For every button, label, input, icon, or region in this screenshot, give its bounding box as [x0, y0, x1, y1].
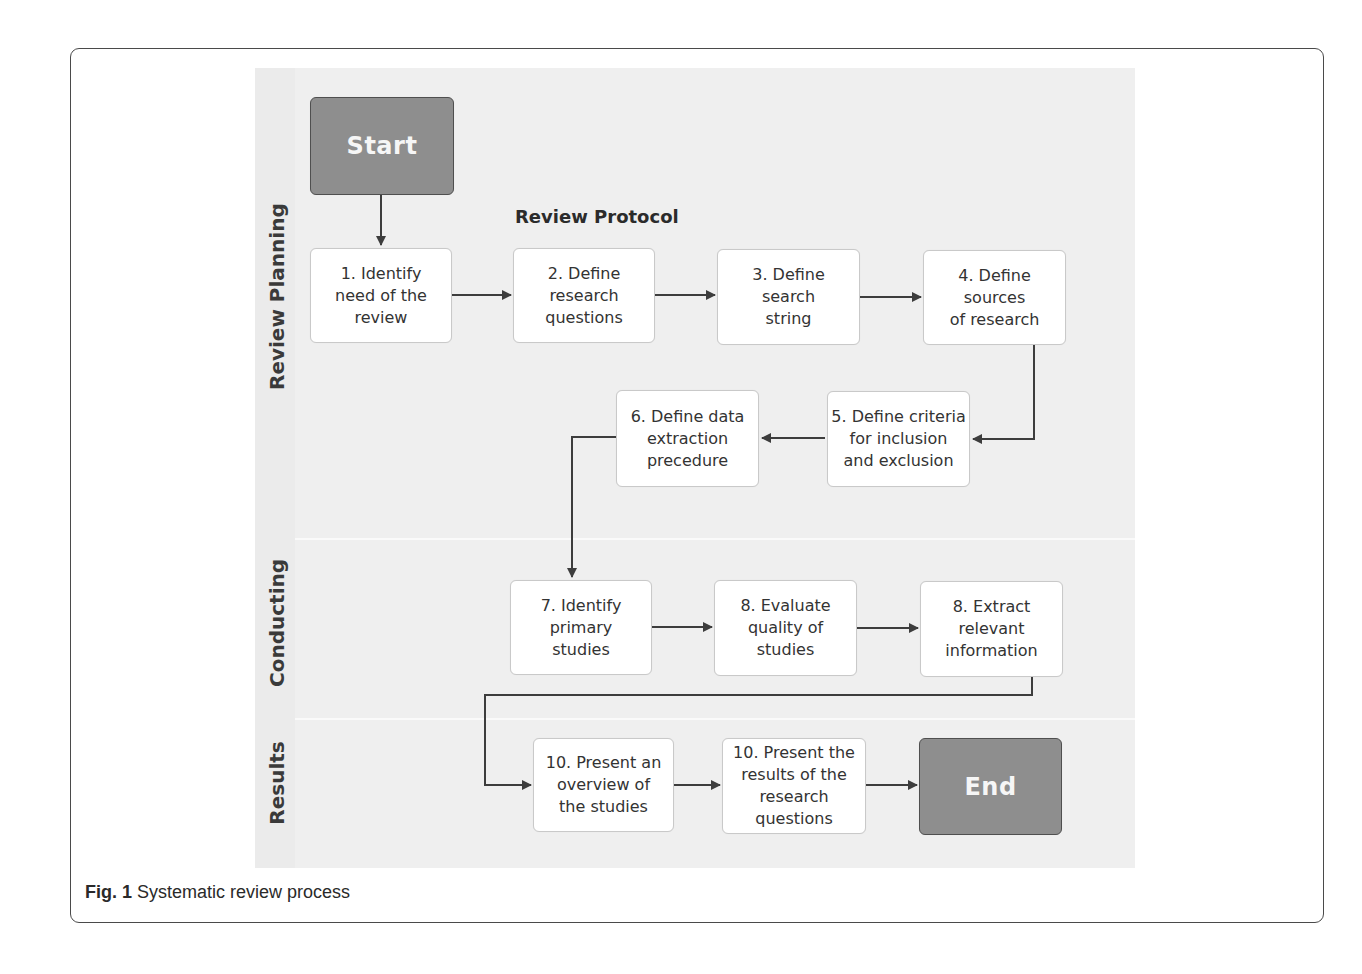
- step-label: 2. Define research questions: [545, 263, 622, 329]
- step-label: 7. Identify primary studies: [541, 595, 622, 661]
- lane-divider: [255, 718, 1135, 720]
- figure-caption: Fig. 1 Systematic review process: [85, 882, 350, 903]
- step-label: 6. Define data extraction precedure: [631, 406, 745, 472]
- step-6-define-data-extraction: 6. Define data extraction precedure: [616, 390, 759, 487]
- step-4-define-sources: 4. Define sources of research: [923, 250, 1066, 345]
- end-label: End: [964, 776, 1016, 798]
- figure-caption-text: Systematic review process: [132, 882, 350, 902]
- start-label: Start: [347, 135, 418, 157]
- start-node: Start: [310, 97, 454, 195]
- lane-label-results: Results: [265, 738, 289, 828]
- step-label: 10. Present an overview of the studies: [546, 752, 662, 818]
- step-label: 8. Evaluate quality of studies: [740, 595, 830, 661]
- step-1-identify-need: 1. Identify need of the review: [310, 248, 452, 343]
- review-protocol-heading: Review Protocol: [515, 206, 679, 227]
- step-label: 8. Extract relevant information: [945, 596, 1037, 662]
- lane-label-conducting: Conducting: [265, 567, 289, 687]
- lane-divider: [255, 538, 1135, 540]
- step-5-define-criteria: 5. Define criteria for inclusion and exc…: [827, 391, 970, 487]
- step-label: 5. Define criteria for inclusion and exc…: [831, 406, 965, 472]
- end-node: End: [919, 738, 1062, 835]
- step-7-identify-primary-studies: 7. Identify primary studies: [510, 580, 652, 675]
- step-3-define-search-string: 3. Define search string: [717, 249, 860, 345]
- step-10-present-overview: 10. Present an overview of the studies: [533, 738, 674, 832]
- step-label: 1. Identify need of the review: [335, 263, 427, 329]
- step-10-present-results: 10. Present the results of the research …: [722, 738, 866, 834]
- step-8-evaluate-quality: 8. Evaluate quality of studies: [714, 580, 857, 676]
- lane-label-review-planning: Review Planning: [265, 230, 289, 390]
- step-label: 4. Define sources of research: [950, 265, 1040, 331]
- step-2-define-research-questions: 2. Define research questions: [513, 248, 655, 343]
- step-label: 10. Present the results of the research …: [733, 742, 855, 830]
- figure-caption-label: Fig. 1: [85, 882, 132, 902]
- step-label: 3. Define search string: [752, 264, 825, 330]
- step-8-extract-information: 8. Extract relevant information: [920, 581, 1063, 677]
